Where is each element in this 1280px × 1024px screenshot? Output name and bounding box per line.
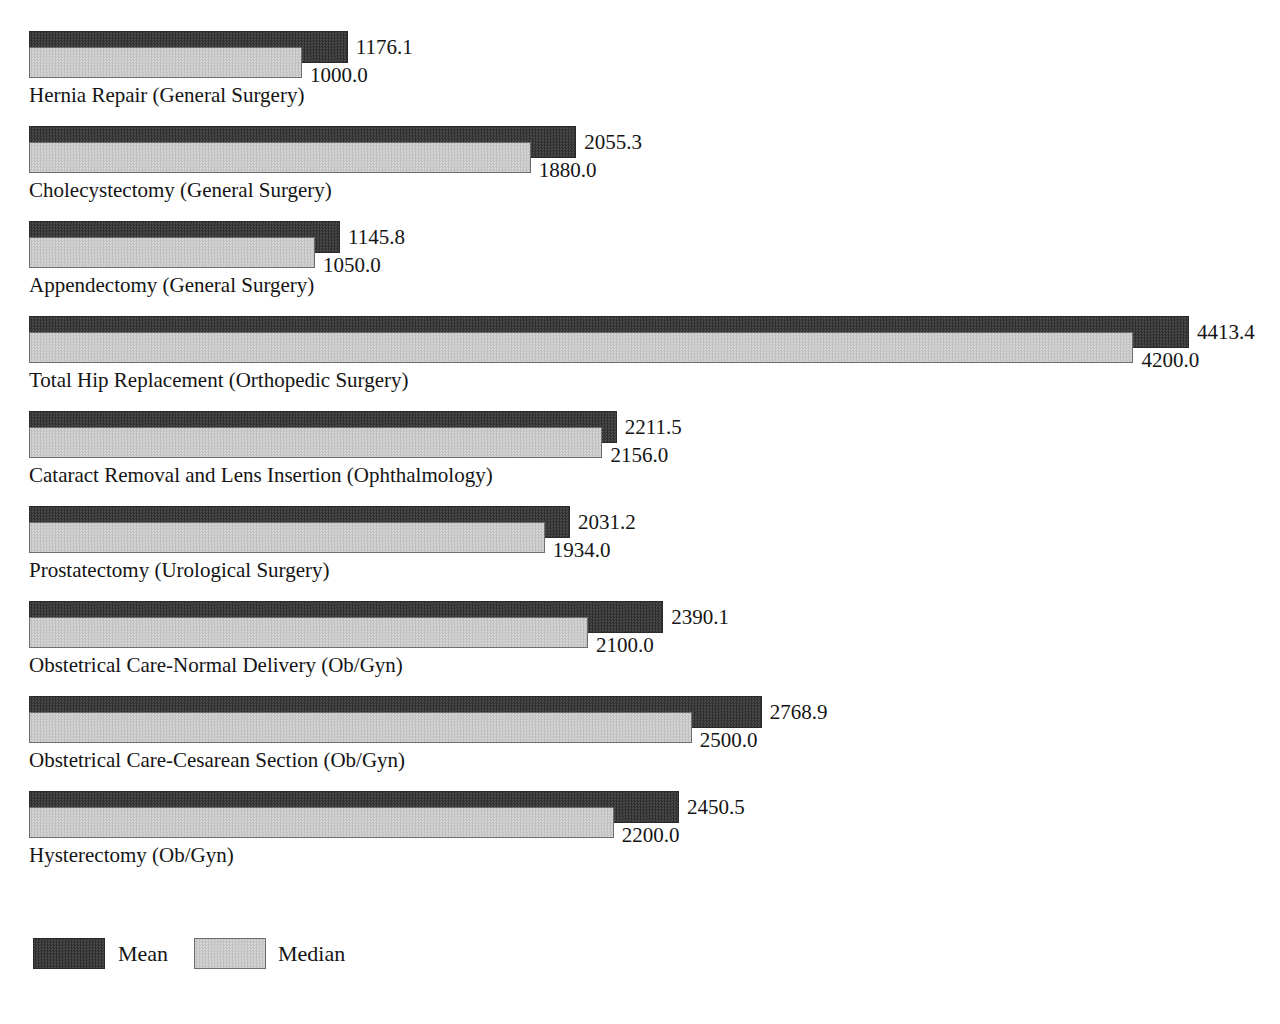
bar-median: [29, 427, 602, 458]
category-label: Obstetrical Care-Normal Delivery (Ob/Gyn…: [29, 653, 403, 677]
bar-value-mean: 2450.5: [687, 797, 745, 818]
bar-value-mean: 2390.1: [671, 607, 729, 628]
bar-value-median: 4200.0: [1141, 350, 1199, 371]
chart-legend: Mean Median: [0, 938, 1280, 984]
legend-swatch-median: [194, 938, 266, 969]
bar-median: [29, 522, 545, 553]
bar-value-mean: 4413.4: [1197, 322, 1255, 343]
bar-median: [29, 47, 302, 78]
bar-value-mean: 2768.9: [770, 702, 828, 723]
bar-value-mean: 2031.2: [578, 512, 636, 533]
legend-label-mean: Mean: [118, 942, 168, 966]
bar-value-median: 2500.0: [700, 730, 758, 751]
bar-value-mean: 1145.8: [348, 227, 405, 248]
bar-value-median: 2200.0: [622, 825, 680, 846]
category-label: Prostatectomy (Urological Surgery): [29, 558, 330, 582]
bar-value-median: 1880.0: [539, 160, 597, 181]
category-label: Hernia Repair (General Surgery): [29, 83, 304, 107]
bar-median: [29, 712, 692, 743]
category-label: Hysterectomy (Ob/Gyn): [29, 843, 234, 867]
legend-swatch-mean: [33, 938, 105, 969]
category-label: Cholecystectomy (General Surgery): [29, 178, 332, 202]
bar-value-median: 1000.0: [310, 65, 368, 86]
bar-value-mean: 2055.3: [584, 132, 642, 153]
bar-value-mean: 2211.5: [625, 417, 682, 438]
bar-median: [29, 142, 531, 173]
bar-median: [29, 237, 315, 268]
bar-median: [29, 332, 1133, 363]
category-label: Cataract Removal and Lens Insertion (Oph…: [29, 463, 493, 487]
chart-root: Mean and Median Charges 1176.11000.0Hern…: [0, 0, 1280, 1024]
plot-area: 1176.11000.0Hernia Repair (General Surge…: [0, 0, 1280, 880]
category-label: Total Hip Replacement (Orthopedic Surger…: [29, 368, 409, 392]
bar-value-median: 1050.0: [323, 255, 381, 276]
legend-label-median: Median: [278, 942, 345, 966]
category-label: Obstetrical Care-Cesarean Section (Ob/Gy…: [29, 748, 405, 772]
bar-value-median: 1934.0: [553, 540, 611, 561]
category-label: Appendectomy (General Surgery): [29, 273, 314, 297]
bar-median: [29, 617, 588, 648]
bar-value-mean: 1176.1: [356, 37, 413, 58]
bar-median: [29, 807, 614, 838]
bar-value-median: 2156.0: [610, 445, 668, 466]
bar-value-median: 2100.0: [596, 635, 654, 656]
